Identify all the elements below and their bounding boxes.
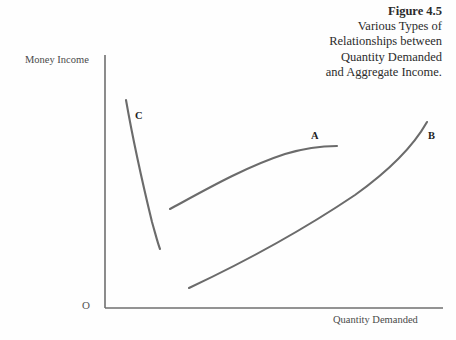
y-axis-label: Money Income xyxy=(25,54,89,65)
curve-label-c: C xyxy=(135,110,143,121)
curve-a xyxy=(170,146,337,209)
figure-title-line-2: Various Types of xyxy=(262,19,442,34)
figure-title-line-3: Relationships between xyxy=(262,34,442,49)
figure-title-line-4: Quantity Demanded xyxy=(262,50,442,65)
curve-label-b: B xyxy=(428,130,435,141)
x-axis-label: Quantity Demanded xyxy=(333,314,418,325)
figure-canvas: Figure 4.5 Various Types of Relationship… xyxy=(0,0,456,340)
figure-title-line-1: Figure 4.5 xyxy=(262,4,442,19)
curve-b xyxy=(189,122,427,288)
figure-title: Figure 4.5 Various Types of Relationship… xyxy=(262,4,442,80)
origin-label: O xyxy=(82,299,90,311)
figure-title-line-5: and Aggregate Income. xyxy=(262,65,442,80)
curve-c xyxy=(126,100,160,249)
curve-label-a: A xyxy=(311,130,319,141)
